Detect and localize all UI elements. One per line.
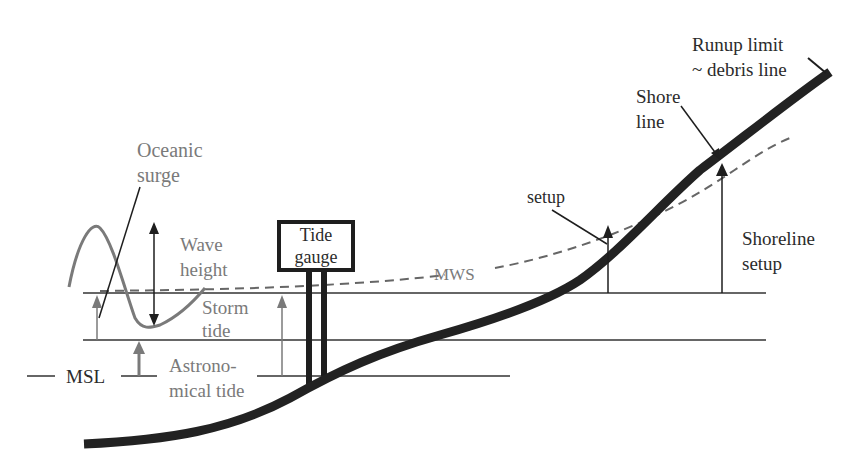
label-shore-line: Shore line [636,84,680,134]
label-oceanic-surge: Oceanic surge [137,138,203,188]
label-tide-gauge: Tide gauge [281,224,351,268]
mws-dashed-curve [100,275,445,291]
shore-line-leader [681,106,717,155]
label-storm-tide: Storm tide [202,296,248,342]
label-runup-limit: Runup limit ~ debris line [692,32,787,82]
arrowhead-up-icon [92,295,102,308]
runup-tick [808,58,826,73]
arrowhead-up-icon [133,341,145,354]
setup-leader [552,210,607,244]
oceanic-surge-leader [99,187,140,318]
label-shoreline-setup: Shoreline setup [742,226,815,276]
label-setup: setup [527,186,565,208]
arrowhead-up-icon [149,222,159,234]
arrowhead-up-icon [603,225,613,238]
arrowhead-up-icon [277,295,287,308]
label-mws: MWS [434,264,475,286]
label-astronomical-tide: Astrono- mical tide [169,353,244,403]
arrowhead-up-icon [716,163,728,176]
label-wave-height: Wave height [180,232,228,282]
storm-surge-diagram: Oceanic surge Wave height Storm tide Ast… [0,0,865,469]
label-msl: MSL [66,366,105,388]
